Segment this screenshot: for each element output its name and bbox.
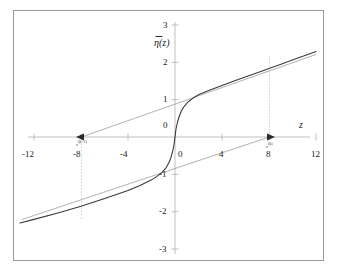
y-tick-label-3: 3 xyxy=(163,21,168,30)
x-tick-label--4: -4 xyxy=(120,150,128,159)
right-arrow-marker xyxy=(267,134,275,141)
y-tick-label--1: -1 xyxy=(159,170,167,179)
y-axis-title-argument: (z) xyxy=(159,37,170,48)
lower-asymptote-guide xyxy=(22,137,270,220)
y-axis-title: η(z) xyxy=(154,38,170,48)
left-point-annotation: z(k+1) xyxy=(76,140,87,147)
y-tick-label--3: -3 xyxy=(159,245,167,254)
left-point-superscript: (k+1) xyxy=(78,139,87,144)
x-tick-label-0: 0 xyxy=(178,150,183,159)
y-tick-label-1: 1 xyxy=(163,95,168,104)
y-tick-label--2: -2 xyxy=(159,207,167,216)
y-tick-label-2: 2 xyxy=(163,58,168,67)
x-tick-label--8: -8 xyxy=(73,150,81,159)
right-point-annotation: z(k) xyxy=(266,142,273,149)
x-tick-label-8: 8 xyxy=(266,150,271,159)
x-axis-title: z xyxy=(299,120,303,130)
x-tick-label-12: 12 xyxy=(311,150,320,159)
x-tick-label-4: 4 xyxy=(219,150,224,159)
figure-container: -12 -8 -4 0 4 8 12 3 2 1 0 -1 -2 -3 η(z)… xyxy=(0,0,338,275)
x-tick-label--12: -12 xyxy=(22,150,34,159)
right-point-superscript: (k) xyxy=(268,141,273,146)
y-tick-label-0: 0 xyxy=(163,121,168,130)
upper-asymptote-guide xyxy=(82,55,317,138)
